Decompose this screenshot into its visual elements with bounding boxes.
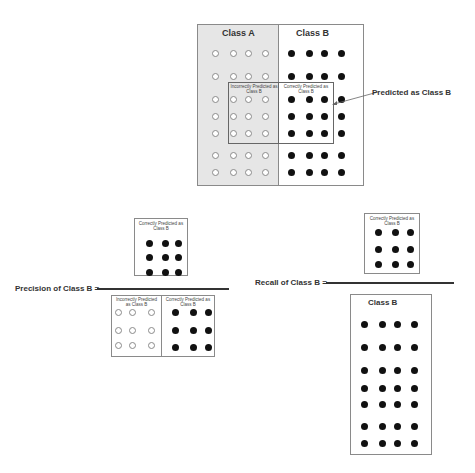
filled-dot-icon bbox=[394, 423, 401, 430]
filled-dot-icon bbox=[375, 229, 382, 236]
filled-dot-icon bbox=[146, 254, 153, 261]
hollow-dot-icon bbox=[230, 50, 237, 57]
hollow-dot-icon bbox=[262, 73, 269, 80]
filled-dot-icon bbox=[172, 309, 179, 316]
precision-numerator-label: Correctly Predicted as Class B bbox=[136, 221, 186, 231]
filled-dot-icon bbox=[190, 327, 197, 334]
filled-dot-icon bbox=[361, 401, 368, 408]
filled-dot-icon bbox=[175, 254, 182, 261]
hollow-dot-icon bbox=[245, 169, 252, 176]
filled-dot-icon bbox=[175, 269, 182, 276]
class-a-label: Class A bbox=[222, 28, 255, 38]
filled-dot-icon bbox=[394, 385, 401, 392]
filled-dot-icon bbox=[379, 367, 386, 374]
hollow-dot-icon bbox=[115, 309, 122, 316]
hollow-dot-icon bbox=[115, 342, 122, 349]
hollow-dot-icon bbox=[230, 73, 237, 80]
hollow-dot-icon bbox=[129, 309, 136, 316]
filled-dot-icon bbox=[375, 261, 382, 268]
hollow-dot-icon bbox=[230, 152, 237, 159]
filled-dot-icon bbox=[338, 113, 345, 120]
precision-label: Precision of Class B = bbox=[15, 284, 99, 293]
hollow-dot-icon bbox=[212, 130, 219, 137]
filled-dot-icon bbox=[379, 321, 386, 328]
filled-dot-icon bbox=[394, 440, 401, 447]
hollow-dot-icon bbox=[212, 73, 219, 80]
filled-dot-icon bbox=[190, 344, 197, 351]
filled-dot-icon bbox=[361, 423, 368, 430]
filled-dot-icon bbox=[361, 367, 368, 374]
filled-dot-icon bbox=[338, 169, 345, 176]
recall-label: Recall of Class B = bbox=[255, 278, 327, 287]
filled-dot-icon bbox=[288, 50, 295, 57]
filled-dot-icon bbox=[288, 169, 295, 176]
precision-denominator-right-label: Correctly Predicted as Class B bbox=[164, 297, 212, 307]
filled-dot-icon bbox=[172, 344, 179, 351]
filled-dot-icon bbox=[379, 440, 386, 447]
filled-dot-icon bbox=[321, 50, 328, 57]
filled-dot-icon bbox=[379, 344, 386, 351]
hollow-dot-icon bbox=[245, 50, 252, 57]
recall-numerator-label: Correctly Predicted as Class B bbox=[366, 216, 418, 226]
filled-dot-icon bbox=[375, 246, 382, 253]
filled-dot-icon bbox=[361, 385, 368, 392]
filled-dot-icon bbox=[338, 152, 345, 159]
hollow-dot-icon bbox=[262, 152, 269, 159]
filled-dot-icon bbox=[306, 169, 313, 176]
hollow-dot-icon bbox=[245, 152, 252, 159]
filled-dot-icon bbox=[321, 169, 328, 176]
predicted-box-divider bbox=[278, 82, 279, 144]
filled-dot-icon bbox=[411, 344, 418, 351]
filled-dot-icon bbox=[205, 344, 212, 351]
recall-denominator-label: Class B bbox=[368, 298, 397, 307]
filled-dot-icon bbox=[394, 367, 401, 374]
filled-dot-icon bbox=[379, 401, 386, 408]
filled-dot-icon bbox=[146, 269, 153, 276]
precision-denominator-left-label: Incorrectly Predicted as Class B bbox=[113, 297, 160, 307]
filled-dot-icon bbox=[175, 240, 182, 247]
filled-dot-icon bbox=[411, 401, 418, 408]
class-b-label: Class B bbox=[296, 28, 329, 38]
hollow-dot-icon bbox=[148, 309, 155, 316]
filled-dot-icon bbox=[361, 440, 368, 447]
filled-dot-icon bbox=[338, 130, 345, 137]
filled-dot-icon bbox=[146, 240, 153, 247]
filled-dot-icon bbox=[411, 440, 418, 447]
filled-dot-icon bbox=[338, 73, 345, 80]
recall-fraction-line bbox=[326, 282, 454, 284]
filled-dot-icon bbox=[394, 401, 401, 408]
filled-dot-icon bbox=[411, 385, 418, 392]
filled-dot-icon bbox=[379, 385, 386, 392]
hollow-dot-icon bbox=[129, 342, 136, 349]
filled-dot-icon bbox=[411, 321, 418, 328]
incorrectly-predicted-label: Incorrectly Predicted as Class B bbox=[230, 84, 278, 94]
filled-dot-icon bbox=[394, 344, 401, 351]
filled-dot-icon bbox=[162, 269, 169, 276]
filled-dot-icon bbox=[392, 261, 399, 268]
hollow-dot-icon bbox=[212, 152, 219, 159]
hollow-dot-icon bbox=[262, 50, 269, 57]
predicted-as-class-b-callout: Predicted as Class B bbox=[372, 88, 451, 97]
hollow-dot-icon bbox=[212, 50, 219, 57]
hollow-dot-icon bbox=[129, 327, 136, 334]
filled-dot-icon bbox=[394, 321, 401, 328]
hollow-dot-icon bbox=[212, 96, 219, 103]
filled-dot-icon bbox=[321, 152, 328, 159]
recall-denominator-box bbox=[350, 294, 432, 455]
precision-fraction-line bbox=[97, 288, 229, 290]
filled-dot-icon bbox=[411, 367, 418, 374]
filled-dot-icon bbox=[288, 152, 295, 159]
hollow-dot-icon bbox=[212, 169, 219, 176]
filled-dot-icon bbox=[172, 327, 179, 334]
filled-dot-icon bbox=[205, 309, 212, 316]
filled-dot-icon bbox=[321, 73, 328, 80]
precision-denominator-divider bbox=[161, 295, 162, 357]
hollow-dot-icon bbox=[115, 327, 122, 334]
hollow-dot-icon bbox=[148, 342, 155, 349]
filled-dot-icon bbox=[361, 321, 368, 328]
hollow-dot-icon bbox=[230, 169, 237, 176]
filled-dot-icon bbox=[407, 229, 414, 236]
filled-dot-icon bbox=[407, 246, 414, 253]
filled-dot-icon bbox=[411, 423, 418, 430]
filled-dot-icon bbox=[392, 229, 399, 236]
